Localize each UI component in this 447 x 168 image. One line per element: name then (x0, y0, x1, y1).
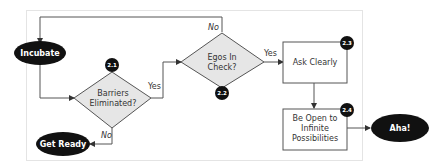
node-egos-line1: Egos In (207, 53, 236, 62)
node-open-line3: Possibilities (292, 134, 338, 143)
edge-label-barriers-yes: Yes (147, 82, 161, 91)
svg-text:2.3: 2.3 (342, 40, 352, 46)
node-barriers-line1: Barriers (97, 89, 128, 98)
badge-2-4: 2.4 (340, 103, 354, 117)
node-open-line2: Infinite (301, 124, 329, 133)
badge-2-2: 2.2 (215, 86, 229, 100)
svg-text:2.4: 2.4 (342, 107, 352, 113)
node-open-line1: Be Open to (293, 114, 338, 123)
badge-2-1: 2.1 (105, 58, 119, 72)
node-aha[interactable]: Aha! (371, 114, 429, 142)
svg-text:2.2: 2.2 (217, 90, 227, 96)
flowchart-canvas: No Yes No Yes Incubate Barriers Eliminat… (0, 0, 447, 168)
edge-label-egos-yes: Yes (263, 49, 277, 58)
edge-label-barriers-no: No (101, 131, 112, 140)
node-ask-label: Ask Clearly (293, 58, 338, 67)
node-get-ready[interactable]: Get Ready (36, 132, 90, 156)
node-incubate[interactable]: Incubate (14, 41, 66, 65)
node-barriers-line2: Eliminated? (90, 99, 137, 108)
node-egos-line2: Check? (208, 63, 237, 72)
svg-text:2.1: 2.1 (107, 62, 117, 68)
node-get-ready-label: Get Ready (40, 140, 87, 149)
edge-label-egos-no: No (208, 23, 219, 32)
node-incubate-label: Incubate (20, 49, 60, 58)
node-aha-label: Aha! (390, 124, 411, 133)
badge-2-3: 2.3 (340, 36, 354, 50)
node-ask-clearly[interactable]: Ask Clearly (283, 42, 347, 83)
node-be-open[interactable]: Be Open to Infinite Possibilities (283, 109, 347, 150)
